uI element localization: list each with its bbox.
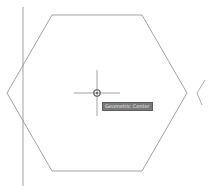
partial-shape-right[interactable] xyxy=(197,80,205,105)
drawing-canvas[interactable] xyxy=(0,0,209,186)
snap-tooltip: Geometric Center xyxy=(102,102,153,111)
